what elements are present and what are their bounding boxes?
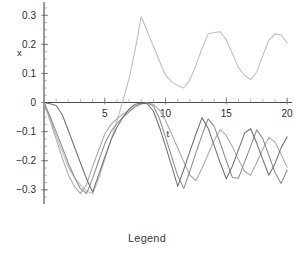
x-tick-label: 20 xyxy=(282,108,294,119)
legend-caption: Legend xyxy=(0,232,294,244)
y-tick-label: 0.3 xyxy=(22,10,36,21)
y-tick-label: 0 xyxy=(30,97,36,108)
chart-container: −0.3−0.2−0.100.10.20.3 5101520 x t Legen… xyxy=(0,0,294,256)
x-tick-label: 5 xyxy=(102,108,108,119)
x-tick-label: 15 xyxy=(221,108,233,119)
y-tick-label: −0.1 xyxy=(16,126,36,137)
major-ticks-x xyxy=(105,98,287,105)
y-tick-label: 0.2 xyxy=(22,39,36,50)
y-tick-label: −0.3 xyxy=(16,184,36,195)
y-tick-label: −0.2 xyxy=(16,155,36,166)
x-axis-title: t xyxy=(167,128,170,139)
series-line-series-1 xyxy=(44,17,287,194)
y-tick-labels: −0.3−0.2−0.100.10.20.3 xyxy=(16,10,36,196)
y-axis-title: x xyxy=(17,47,22,58)
y-tick-label: 0.1 xyxy=(22,68,36,79)
data-series-group xyxy=(44,17,287,194)
line-chart-plot: −0.3−0.2−0.100.10.20.3 5101520 x t xyxy=(0,0,294,256)
